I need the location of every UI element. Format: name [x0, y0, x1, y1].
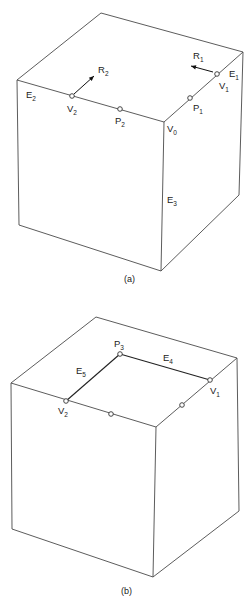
cube-edge [11, 383, 156, 427]
cube-edge [17, 80, 19, 225]
label-e4: E4 [163, 352, 173, 365]
label-e2: E2 [26, 89, 36, 102]
label-v2: V2 [67, 103, 77, 116]
cube-edge [11, 383, 12, 529]
point-v1 [215, 72, 220, 77]
cube-edge [17, 80, 164, 122]
label-v1: V1 [210, 385, 220, 398]
label-e1: E1 [229, 68, 239, 81]
label-e5: E5 [76, 365, 86, 378]
label-p1: P1 [193, 102, 203, 115]
point-p3 [118, 352, 123, 357]
point-p2 [118, 107, 123, 112]
cube-edge [101, 13, 243, 52]
point-v2 [70, 94, 75, 99]
cube-diagram: E1E2E3V0V1P1V2P2R1R2 P3E4E5V1V2 (a) (b) [0, 0, 252, 604]
cube-edge [17, 13, 101, 80]
figure-a-cube: E1E2E3V0V1P1V2P2R1R2 [17, 13, 243, 271]
label-v0: V0 [167, 123, 177, 136]
cube-edge [161, 122, 164, 271]
point-unlabeled [109, 412, 114, 417]
figure-b-cube: P3E4E5V1V2 [11, 317, 239, 577]
point-unlabeled [180, 403, 185, 408]
edge-e5 [66, 354, 120, 401]
point-v2 [64, 399, 69, 404]
point-p1 [188, 96, 193, 101]
cube-edge [237, 358, 239, 511]
cube-edge [19, 225, 161, 271]
caption-a: (a) [124, 274, 135, 284]
label-v1: V1 [219, 80, 229, 93]
label-v2: V2 [58, 405, 68, 418]
label-p3: P3 [114, 338, 124, 351]
point-v1 [208, 378, 213, 383]
label-p2: P2 [115, 115, 125, 128]
cube-edge [12, 529, 153, 577]
label-e3: E3 [167, 194, 177, 207]
label-r1: R1 [193, 50, 204, 63]
cube-edge [239, 52, 243, 195]
cube-edge [164, 52, 243, 122]
cube-edge [153, 427, 156, 577]
cube-edge [153, 511, 239, 577]
caption-b: (b) [121, 586, 132, 596]
label-r2: R2 [98, 64, 109, 77]
